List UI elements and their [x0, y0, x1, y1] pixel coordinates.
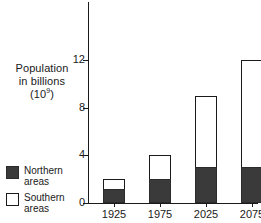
bar-1925 — [103, 179, 125, 203]
bar-1975 — [149, 155, 171, 203]
x-tick-mark-2075 — [252, 203, 253, 207]
bar-segment-northern-2075 — [241, 167, 261, 203]
legend-label-southern-line-2: areas — [24, 204, 65, 215]
x-tick-mark-2025 — [206, 203, 207, 207]
bar-segment-northern-2025 — [195, 167, 217, 203]
chart-legend: Northern areas Southern areas — [6, 166, 84, 220]
bar-segment-northern-1975 — [149, 179, 171, 203]
legend-label-southern: Southern areas — [24, 193, 65, 214]
bar-segment-northern-1925 — [103, 189, 125, 203]
y-tick-label: 4 — [79, 148, 85, 160]
y-tick-label: 8 — [79, 101, 85, 113]
y-tick-label: 0 — [79, 196, 85, 208]
exponent-nine: 9 — [46, 87, 50, 94]
legend-label-northern-line-2: areas — [24, 177, 63, 188]
y-tick-label: 12 — [73, 53, 85, 65]
y-axis-label-line-2: in billions — [2, 75, 82, 88]
legend-label-northern: Northern areas — [24, 166, 63, 187]
y-axis-label: Population in billions (109) — [2, 62, 82, 101]
legend-item-southern: Southern areas — [6, 193, 84, 214]
x-tick-label-1925: 1925 — [102, 208, 126, 220]
y-axis-label-line-3: (109) — [2, 88, 82, 101]
legend-swatch-southern-icon — [6, 193, 19, 206]
legend-swatch-northern-icon — [6, 166, 19, 179]
y-axis-line — [88, 2, 89, 203]
y-axis-label-line-1: Population — [2, 62, 82, 75]
legend-label-southern-line-1: Southern — [24, 193, 65, 204]
x-tick-label-2075: 2075 — [240, 208, 261, 220]
x-tick-mark-1925 — [114, 203, 115, 207]
population-stacked-bar-chart: Population in billions (109) Northern ar… — [0, 0, 261, 223]
plot-area: 04812 1925197520252075 — [88, 0, 261, 223]
legend-item-northern: Northern areas — [6, 166, 84, 187]
bar-2025 — [195, 96, 217, 203]
bar-2075 — [241, 60, 261, 203]
x-tick-mark-1975 — [160, 203, 161, 207]
x-tick-label-1975: 1975 — [148, 208, 172, 220]
legend-label-northern-line-1: Northern — [24, 166, 63, 177]
x-tick-label-2025: 2025 — [194, 208, 218, 220]
